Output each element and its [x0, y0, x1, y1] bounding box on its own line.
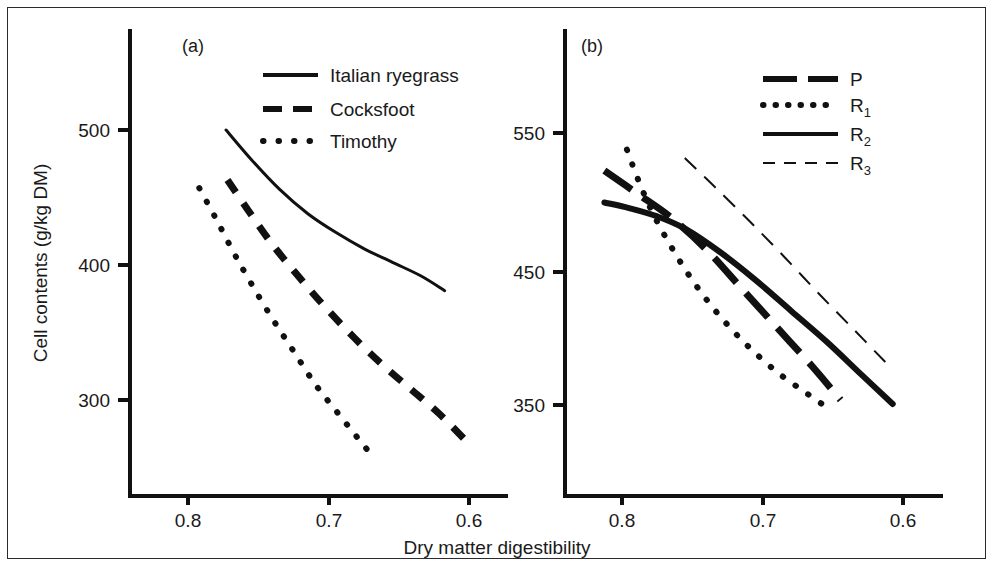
legend-label-p: P [850, 69, 863, 90]
legend-panel-a: Italian ryegrass Cocksfoot Timothy [263, 65, 459, 152]
legend-label-r3-sub: 3 [864, 163, 871, 178]
legend-label-r2: R2 [850, 124, 871, 149]
panel-a-ytick-300: 300 [78, 390, 110, 411]
series-cocksfoot [227, 180, 464, 439]
legend-label-r1: R1 [850, 95, 871, 120]
panel-b-ytick-550: 550 [513, 123, 545, 144]
panel-a-xtick-08: 0.8 [175, 510, 201, 531]
panel-b-xtick-07: 0.7 [750, 510, 776, 531]
legend-label-italian-ryegrass: Italian ryegrass [330, 65, 459, 86]
legend-label-cocksfoot: Cocksfoot [330, 99, 415, 120]
legend-panel-b: P R1 R2 R3 [763, 69, 871, 178]
legend-label-r2-sub: 2 [864, 134, 871, 149]
panel-a-ytick-500: 500 [78, 120, 110, 141]
x-axis-title: Dry matter digestibility [404, 537, 591, 558]
panel-a: 500 400 300 0.8 0.7 0.6 (a) Italian ryeg… [78, 29, 508, 531]
panel-a-xtick-07: 0.7 [316, 510, 342, 531]
panel-a-label: (a) [182, 36, 204, 56]
panel-a-xtick-06: 0.6 [456, 510, 482, 531]
series-italian-ryegrass [226, 130, 445, 291]
panel-b-xtick-08: 0.8 [609, 510, 635, 531]
series-timothy [199, 188, 368, 451]
legend-label-r2-text: R [850, 124, 864, 145]
panel-b-xtick-06: 0.6 [890, 510, 916, 531]
chart-canvas: 500 400 300 0.8 0.7 0.6 (a) Italian ryeg… [0, 0, 994, 567]
legend-label-r1-text: R [850, 95, 864, 116]
panel-b-ytick-450: 450 [513, 262, 545, 283]
legend-label-timothy: Timothy [330, 131, 397, 152]
y-axis-title: Cell contents (g/kg DM) [30, 164, 51, 363]
figure-container: 500 400 300 0.8 0.7 0.6 (a) Italian ryeg… [0, 0, 994, 567]
series-r2 [604, 203, 892, 405]
legend-label-r3: R3 [850, 153, 871, 178]
panel-b: 550 450 350 0.8 0.7 0.6 (b) P R1 [513, 29, 943, 531]
series-p [604, 171, 840, 400]
panel-b-label: (b) [581, 36, 603, 56]
series-r1 [627, 150, 832, 411]
legend-label-r3-text: R [850, 153, 864, 174]
legend-label-r1-sub: 1 [864, 105, 871, 120]
panel-a-ytick-400: 400 [78, 255, 110, 276]
panel-b-ytick-350: 350 [513, 395, 545, 416]
